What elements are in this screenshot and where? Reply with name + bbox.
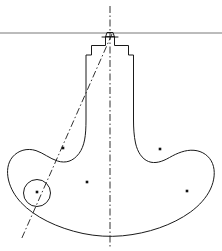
center-mark-in-circle — [36, 191, 39, 194]
centerlines-group — [21, 6, 112, 248]
center-mark-lower-middle — [86, 181, 89, 184]
center-marks-group — [36, 147, 189, 194]
part-outline-group — [8, 33, 215, 237]
center-mark-lower-right — [186, 190, 189, 193]
drawing-svg — [0, 0, 222, 251]
diagonal-construction-line — [21, 34, 112, 240]
center-mark-upper-right — [159, 148, 162, 151]
center-mark-upper-left — [62, 147, 65, 150]
technical-drawing-canvas — [0, 0, 222, 251]
